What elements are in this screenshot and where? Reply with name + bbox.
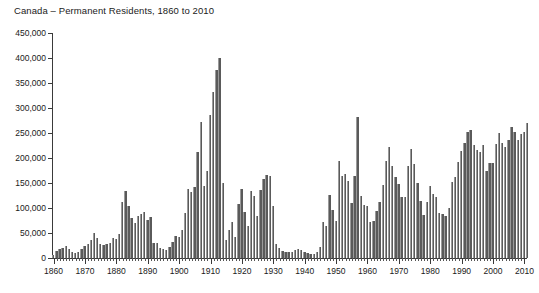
y-tick-label: 350,000	[15, 78, 46, 88]
bar	[68, 249, 70, 258]
y-tick: 450,000	[15, 28, 52, 38]
bar	[156, 243, 158, 258]
y-tick-label: 150,000	[15, 178, 46, 188]
bar	[152, 243, 154, 258]
x-tick-label: 1950	[327, 266, 346, 276]
bar	[309, 254, 311, 258]
bar	[93, 233, 95, 258]
bar	[140, 214, 142, 258]
bar	[498, 133, 500, 258]
bar	[322, 222, 324, 258]
bar	[87, 244, 89, 258]
bar	[77, 252, 79, 258]
bar	[517, 140, 519, 258]
bar	[407, 166, 409, 258]
x-tick-label: 1970	[389, 266, 408, 276]
x-tick-major	[305, 258, 306, 264]
bar	[228, 230, 230, 258]
bar	[284, 252, 286, 258]
bar	[391, 166, 393, 258]
bar	[275, 244, 277, 258]
bar	[240, 189, 242, 258]
y-tick: 400,000	[15, 53, 52, 63]
bar	[165, 250, 167, 258]
bar	[80, 249, 82, 258]
bar	[331, 210, 333, 258]
bar	[291, 252, 293, 258]
bar	[159, 248, 161, 258]
bar	[265, 175, 267, 258]
bar	[181, 230, 183, 258]
bar	[438, 213, 440, 258]
y-tick: 200,000	[15, 153, 52, 163]
bar	[382, 185, 384, 258]
bar	[513, 132, 515, 258]
bar	[344, 174, 346, 258]
x-tick-label: 1880	[107, 266, 126, 276]
bar	[335, 221, 337, 258]
x-tick-label: 2010	[515, 266, 534, 276]
bar	[278, 248, 280, 258]
bar	[256, 216, 258, 258]
bar	[303, 252, 305, 258]
x-tick-major	[462, 258, 463, 264]
bar	[369, 222, 371, 258]
bar	[385, 161, 387, 258]
bar	[520, 134, 522, 258]
x-tick-label: 1930	[264, 266, 283, 276]
bar	[149, 217, 151, 258]
bar	[507, 140, 509, 258]
bar	[372, 221, 374, 258]
bar	[353, 176, 355, 258]
y-tick-label: 100,000	[15, 203, 46, 213]
x-tick-major	[116, 258, 117, 264]
x-tick-major	[399, 258, 400, 264]
bar	[360, 196, 362, 258]
bar	[444, 216, 446, 258]
bar	[473, 145, 475, 258]
bar	[102, 245, 104, 258]
bar	[316, 252, 318, 258]
bar	[247, 226, 249, 258]
bar	[203, 186, 205, 258]
bar	[55, 251, 57, 258]
x-axis-major-ticks	[0, 258, 539, 264]
x-tick-major	[367, 258, 368, 264]
bar	[491, 163, 493, 258]
x-tick-major	[148, 258, 149, 264]
bar	[127, 206, 129, 258]
x-tick-label: 1960	[358, 266, 377, 276]
y-tick-label: 400,000	[15, 53, 46, 63]
bar	[341, 176, 343, 258]
bar	[457, 162, 459, 258]
bar	[174, 236, 176, 258]
bar	[162, 249, 164, 258]
x-tick-major	[242, 258, 243, 264]
y-tick: 250,000	[15, 128, 52, 138]
bar	[90, 240, 92, 258]
bar	[269, 176, 271, 258]
bar	[287, 252, 289, 258]
bar	[109, 243, 111, 258]
x-tick-label: 2000	[484, 266, 503, 276]
chart-root: Canada – Permanent Residents, 1860 to 20…	[0, 0, 539, 293]
x-axis-labels: 1860187018801890190019101920193019401950…	[0, 266, 539, 280]
bar	[196, 152, 198, 258]
bar	[319, 247, 321, 258]
bar	[193, 187, 195, 258]
x-tick-major	[179, 258, 180, 264]
bar	[479, 152, 481, 258]
bar	[121, 202, 123, 258]
bar	[378, 202, 380, 258]
bar	[200, 122, 202, 258]
bar-series	[52, 33, 526, 258]
bar	[366, 206, 368, 258]
bar	[243, 212, 245, 258]
bar	[96, 238, 98, 258]
bar	[429, 186, 431, 258]
bar	[190, 192, 192, 258]
bar	[206, 171, 208, 258]
x-tick-label: 1980	[421, 266, 440, 276]
x-tick-label: 1890	[138, 266, 157, 276]
x-tick-label: 1860	[44, 266, 63, 276]
